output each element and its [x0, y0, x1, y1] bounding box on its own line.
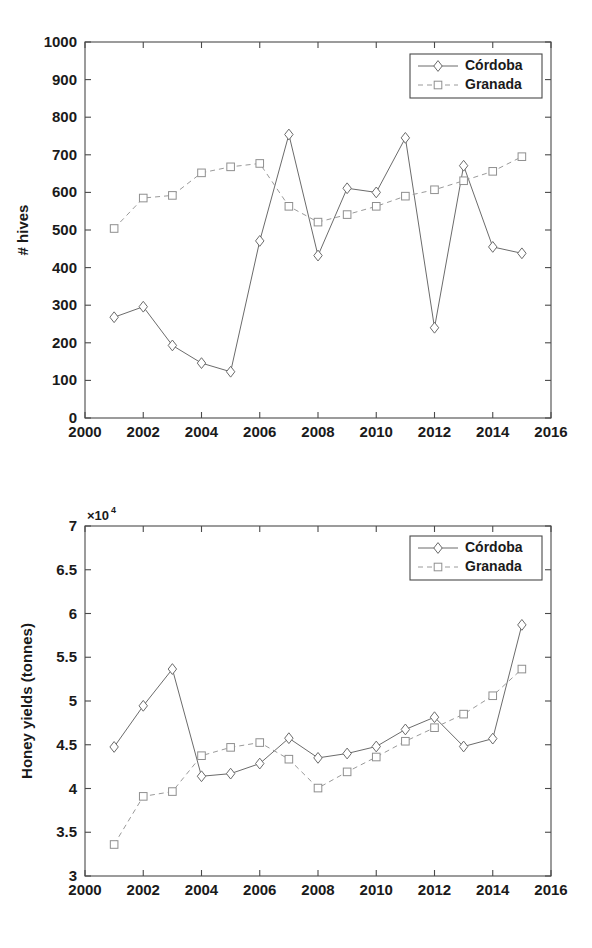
data-point-marker [314, 784, 322, 792]
legend-item-label: Córdoba [465, 539, 523, 555]
data-point-marker [489, 168, 497, 176]
data-point-marker [226, 768, 234, 779]
data-point-marker [459, 741, 467, 752]
data-point-marker [343, 748, 351, 759]
y-tick-label: 200 [52, 334, 77, 351]
data-point-marker [489, 692, 497, 700]
data-point-marker [372, 187, 380, 198]
y-tick-label: 7 [69, 517, 77, 534]
x-tick-label: 2010 [360, 881, 393, 898]
y-tick-label: 900 [52, 71, 77, 88]
y-tick-label: 6 [69, 605, 77, 622]
x-tick-label: 2002 [127, 881, 160, 898]
data-point-marker [372, 753, 380, 761]
data-point-marker [198, 752, 206, 760]
data-point-marker [430, 322, 438, 333]
y-tick-label: 500 [52, 221, 77, 238]
exponent-power: 4 [111, 505, 116, 515]
data-point-marker [226, 366, 234, 377]
data-point-marker [431, 186, 439, 194]
series-crdoba [110, 129, 526, 377]
data-point-marker [285, 203, 293, 211]
data-point-marker [256, 160, 264, 168]
data-point-marker [460, 177, 468, 185]
y-tick-label: 3.5 [56, 823, 77, 840]
y-tick-label: 800 [52, 108, 77, 125]
data-point-marker [402, 192, 410, 200]
data-point-marker [518, 248, 526, 259]
data-point-marker [431, 724, 439, 732]
y-axis-title: # hives [14, 205, 31, 256]
figure-page: 2000200220042006200820102012201420160100… [0, 0, 592, 948]
data-point-marker [518, 619, 526, 630]
chart-legend: CórdobaGranada [410, 536, 542, 580]
data-point-marker [110, 225, 118, 233]
legend-marker-square-icon [434, 81, 442, 89]
x-tick-label: 2014 [476, 423, 510, 440]
series-crdoba [110, 619, 526, 781]
legend-item-label: Córdoba [465, 57, 523, 73]
data-point-marker [401, 724, 409, 735]
y-tick-label: 700 [52, 146, 77, 163]
data-point-marker [197, 358, 205, 369]
y-tick-label: 400 [52, 259, 77, 276]
x-tick-label: 2016 [534, 423, 567, 440]
x-tick-label: 2010 [360, 423, 393, 440]
data-point-marker [256, 739, 264, 747]
x-tick-label: 2016 [534, 881, 567, 898]
x-tick-label: 2008 [301, 423, 334, 440]
data-point-marker [285, 129, 293, 140]
legend-item-label: Granada [465, 558, 522, 574]
data-point-marker [430, 712, 438, 723]
data-point-marker [169, 788, 177, 796]
data-point-marker [139, 194, 147, 202]
x-tick-label: 2012 [418, 881, 451, 898]
y-tick-label: 0 [69, 409, 77, 426]
x-tick-label: 2008 [301, 881, 334, 898]
data-point-marker [460, 710, 468, 718]
data-point-marker [256, 758, 264, 769]
data-point-marker [139, 793, 147, 801]
y-axis-exponent: ×104 [87, 505, 116, 523]
y-tick-label: 1000 [44, 33, 77, 50]
data-point-marker [402, 737, 410, 745]
data-point-marker [110, 312, 118, 323]
chart-hives: 2000200220042006200820102012201420160100… [0, 0, 592, 478]
y-tick-label: 5 [69, 692, 77, 709]
data-point-marker [518, 153, 526, 161]
data-point-marker [343, 183, 351, 194]
x-tick-label: 2002 [127, 423, 160, 440]
x-tick-label: 2006 [243, 423, 276, 440]
data-point-marker [343, 211, 351, 219]
legend-item-label: Granada [465, 76, 522, 92]
data-point-marker [227, 163, 235, 171]
data-point-marker [372, 203, 380, 211]
data-point-marker [489, 242, 497, 253]
data-point-marker [256, 236, 264, 247]
exponent-base: ×10 [87, 508, 109, 523]
chart-hives-canvas: 2000200220042006200820102012201420160100… [0, 0, 592, 478]
data-point-marker [401, 132, 409, 143]
legend-marker-square-icon [434, 563, 442, 571]
y-tick-label: 5.5 [56, 648, 77, 665]
data-point-marker [489, 733, 497, 744]
y-tick-label: 600 [52, 183, 77, 200]
y-axis-title: Honey yields (tonnes) [18, 623, 35, 779]
chart-legend: CórdobaGranada [410, 54, 542, 98]
x-tick-label: 2014 [476, 881, 510, 898]
data-point-marker [314, 250, 322, 261]
y-tick-label: 300 [52, 296, 77, 313]
data-point-marker [285, 755, 293, 763]
data-point-marker [314, 218, 322, 226]
data-point-marker [198, 169, 206, 177]
y-tick-label: 100 [52, 371, 77, 388]
y-tick-label: 4.5 [56, 736, 77, 753]
chart-honey-yields-canvas: 20002002200420062008201020122014201633.5… [0, 478, 592, 948]
data-point-marker [169, 192, 177, 200]
x-tick-label: 2006 [243, 881, 276, 898]
data-point-marker [285, 733, 293, 744]
data-point-marker [314, 752, 322, 763]
y-tick-label: 3 [69, 867, 77, 884]
x-tick-label: 2004 [185, 423, 219, 440]
y-tick-label: 6.5 [56, 561, 77, 578]
